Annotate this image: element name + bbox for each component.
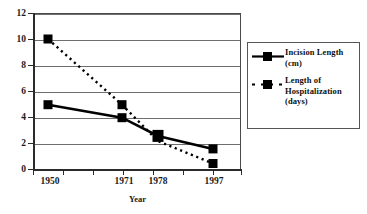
x-tick-mark-1997 bbox=[213, 170, 214, 175]
y-axis bbox=[33, 13, 35, 171]
x-tick-mark-1978 bbox=[153, 170, 154, 175]
x-axis-title: Year bbox=[0, 194, 275, 204]
x-tick-label-1971: 1971 bbox=[115, 177, 134, 187]
y-tick-mark-8 bbox=[28, 65, 34, 66]
legend-key-dashed-square-icon bbox=[251, 76, 285, 87]
x-tick-mark-2 bbox=[93, 170, 94, 175]
legend-label-hosp-line1: Length of bbox=[285, 75, 342, 86]
legend-label-incision-length: Incision Length (cm) bbox=[285, 47, 343, 68]
x-tick-mark-7 bbox=[241, 170, 242, 175]
gridline-6 bbox=[34, 92, 240, 93]
y-tick-label-8: 8 bbox=[2, 61, 26, 71]
line-chart: 12 10 8 6 4 2 0 1950 1971 1978 1997 Year bbox=[0, 0, 367, 214]
gridline-2 bbox=[34, 144, 240, 145]
legend-key-solid-square-icon bbox=[251, 48, 285, 59]
x-tick-label-1950: 1950 bbox=[41, 177, 60, 187]
y-tick-mark-10 bbox=[28, 39, 34, 40]
x-axis bbox=[33, 169, 242, 171]
x-tick-mark-5 bbox=[183, 170, 184, 175]
legend-label-hosp-line2: Hospitalization bbox=[285, 86, 342, 97]
gridline-10 bbox=[34, 40, 240, 41]
y-tick-mark-12 bbox=[28, 13, 34, 14]
x-tick-mark-1971 bbox=[123, 170, 124, 175]
y-tick-label-0: 0 bbox=[2, 165, 26, 175]
x-tick-label-1997: 1997 bbox=[205, 177, 224, 187]
plot-area bbox=[33, 13, 241, 170]
y-tick-label-2: 2 bbox=[2, 139, 26, 149]
legend-label-incision-line2: (cm) bbox=[285, 58, 343, 69]
gridline-12 bbox=[34, 14, 240, 15]
x-tick-mark-1950 bbox=[63, 170, 64, 175]
legend-label-hosp-line3: (days) bbox=[285, 96, 342, 107]
y-tick-mark-2 bbox=[28, 143, 34, 144]
legend: Incision Length (cm) Length of Hospitali… bbox=[247, 42, 360, 129]
x-tick-mark-0 bbox=[33, 170, 34, 175]
legend-entry-hospitalization: Length of Hospitalization (days) bbox=[251, 75, 356, 107]
y-tick-label-6: 6 bbox=[2, 87, 26, 97]
legend-entry-incision-length: Incision Length (cm) bbox=[251, 47, 356, 68]
y-tick-mark-4 bbox=[28, 117, 34, 118]
y-tick-label-12: 12 bbox=[2, 9, 26, 19]
legend-label-incision-line1: Incision Length bbox=[285, 47, 343, 58]
gridline-4 bbox=[34, 118, 240, 119]
y-tick-label-10: 10 bbox=[2, 35, 26, 45]
legend-label-hospitalization: Length of Hospitalization (days) bbox=[285, 75, 342, 107]
x-tick-label-1978: 1978 bbox=[149, 177, 168, 187]
y-tick-label-4: 4 bbox=[2, 113, 26, 123]
gridline-8 bbox=[34, 66, 240, 67]
y-tick-mark-6 bbox=[28, 91, 34, 92]
